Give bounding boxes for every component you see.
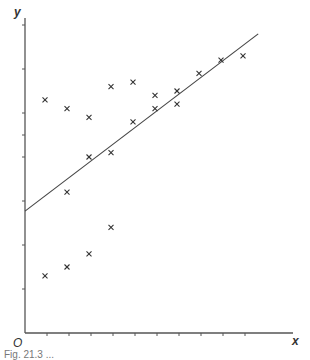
figure-caption: Fig. 21.3 ... (4, 349, 54, 360)
x-axis-label: x (291, 334, 300, 348)
x-marker-icon (197, 71, 202, 76)
x-marker-icon (175, 102, 180, 107)
x-marker-icon (241, 53, 246, 58)
x-marker-icon (131, 80, 136, 85)
x-marker-icon (153, 93, 158, 98)
x-marker-icon (109, 225, 114, 230)
x-marker-icon (109, 150, 114, 155)
y-axis-label: y (13, 5, 22, 19)
x-marker-icon (87, 155, 92, 160)
x-marker-icon (109, 84, 114, 89)
axes (22, 18, 293, 336)
origin-label: O (13, 336, 22, 350)
x-marker-icon (175, 89, 180, 94)
x-marker-icon (65, 190, 70, 195)
data-points (43, 53, 246, 278)
x-marker-icon (43, 273, 48, 278)
x-marker-icon (87, 115, 92, 120)
x-marker-icon (131, 119, 136, 124)
x-marker-icon (65, 106, 70, 111)
x-marker-icon (65, 265, 70, 270)
regression-line (25, 34, 258, 211)
x-marker-icon (153, 106, 158, 111)
x-marker-icon (87, 251, 92, 256)
x-marker-icon (43, 97, 48, 102)
fit-line (25, 34, 258, 211)
